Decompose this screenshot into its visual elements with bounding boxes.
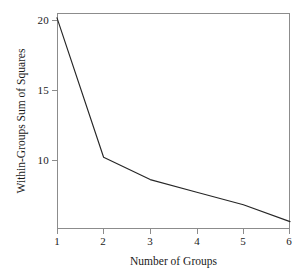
y-axis-title: Within-Groups Sum of Squares [14, 13, 28, 229]
x-tick-mark-5 [243, 229, 244, 234]
x-tick-label-1: 1 [47, 236, 67, 247]
x-tick-label-6: 6 [279, 236, 299, 247]
x-tick-label-4: 4 [187, 236, 207, 247]
x-tick-mark-3 [150, 229, 151, 234]
y-tick-mark-20 [52, 20, 57, 21]
y-tick-mark-15 [52, 90, 57, 91]
x-axis-title: Number of Groups [57, 255, 290, 267]
within-groups-sum-of-squares-line [57, 18, 290, 222]
x-tick-mark-1 [57, 229, 58, 234]
y-tick-label-20: 20 [38, 15, 49, 26]
x-tick-label-2: 2 [93, 236, 113, 247]
y-tick-label-15: 15 [38, 85, 49, 96]
x-tick-mark-4 [197, 229, 198, 234]
x-tick-label-5: 5 [233, 236, 253, 247]
y-tick-label-10: 10 [38, 155, 49, 166]
x-tick-mark-6 [289, 229, 290, 234]
plot-data-layer [57, 13, 290, 229]
x-tick-mark-2 [103, 229, 104, 234]
scree-plot-figure: 20 15 10 1 2 3 4 5 6 Number of Groups Wi… [0, 0, 301, 274]
y-tick-mark-10 [52, 160, 57, 161]
x-tick-label-3: 3 [140, 236, 160, 247]
